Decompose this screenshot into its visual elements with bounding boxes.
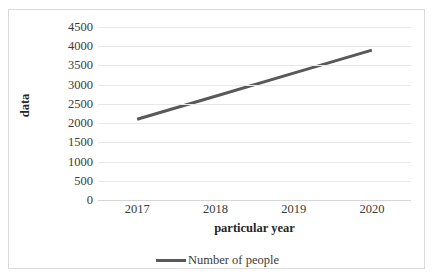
chart-figure: 050010001500200025003000350040004500 201… — [0, 0, 433, 279]
y-tick-label: 3000 — [39, 78, 93, 91]
series-layer — [98, 27, 411, 200]
y-axis-tick-labels: 050010001500200025003000350040004500 — [35, 27, 93, 200]
x-axis-tick-labels: 2017201820192020 — [98, 203, 411, 221]
legend-item[interactable]: Number of people — [156, 253, 279, 268]
y-tick-label: 2000 — [39, 117, 93, 130]
gridline — [98, 46, 411, 47]
x-tick-label: 2020 — [337, 203, 407, 217]
x-tick-label: 2019 — [259, 203, 329, 217]
gridline — [98, 162, 411, 163]
gridline — [98, 181, 411, 182]
y-tick-label: 1500 — [39, 136, 93, 149]
x-axis-title: particular year — [98, 221, 411, 236]
legend-label: Number of people — [188, 253, 279, 268]
y-tick-label: 3500 — [39, 59, 93, 72]
gridline — [98, 104, 411, 105]
y-axis-title: data — [18, 76, 33, 136]
gridline — [98, 142, 411, 143]
gridline — [98, 65, 411, 66]
y-tick-label: 1000 — [39, 155, 93, 168]
y-tick-label: 2500 — [39, 98, 93, 111]
gridline — [98, 200, 411, 201]
y-tick-label: 500 — [39, 175, 93, 188]
x-tick-label: 2018 — [180, 203, 250, 217]
gridline — [98, 85, 411, 86]
plot-area — [98, 27, 411, 200]
legend-line-icon — [156, 259, 186, 262]
chart-frame: 050010001500200025003000350040004500 201… — [8, 9, 425, 269]
gridline — [98, 123, 411, 124]
y-tick-label: 4000 — [39, 40, 93, 53]
x-tick-label: 2017 — [102, 203, 172, 217]
gridline — [98, 27, 411, 28]
y-tick-label: 4500 — [39, 21, 93, 34]
y-tick-label: 0 — [39, 194, 93, 207]
chart-legend: Number of people — [9, 250, 426, 270]
